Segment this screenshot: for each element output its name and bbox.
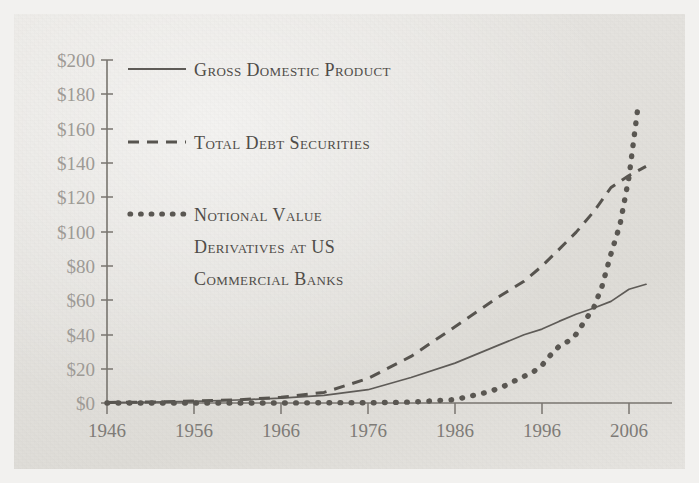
- y-axis: $200 $180 $160 $140 $120 $100 $80 $60 $4…: [57, 50, 113, 414]
- series-line-notional-value-derivatives: [107, 106, 638, 403]
- y-tick-label: $200: [57, 50, 95, 71]
- chart-legend: Gross Domestic Product Total Debt Securi…: [128, 60, 391, 289]
- y-tick-label: $180: [57, 84, 95, 105]
- y-tick-label: $60: [67, 290, 96, 311]
- x-tick-label: 1986: [436, 420, 474, 441]
- y-axis-tick-labels: $200 $180 $160 $140 $120 $100 $80 $60 $4…: [57, 50, 95, 414]
- x-axis: 1946 1956 1966 1976 1986 1996 2006: [88, 403, 672, 441]
- y-tick-label: $120: [57, 187, 95, 208]
- y-tick-label: $160: [57, 119, 95, 140]
- x-tick-label: 2006: [610, 420, 648, 441]
- x-tick-label: 1956: [175, 420, 213, 441]
- y-tick-label: $40: [67, 325, 96, 346]
- chart-figure: $200 $180 $160 $140 $120 $100 $80 $60 $4…: [0, 0, 699, 483]
- series-line-total-debt-securities: [107, 166, 646, 402]
- x-axis-tick-labels: 1946 1956 1966 1976 1986 1996 2006: [88, 420, 648, 441]
- legend-label-derivatives-line1: Notional Value: [194, 205, 322, 225]
- legend-item-gdp: Gross Domestic Product: [128, 60, 391, 80]
- y-tick-label: $20: [67, 359, 96, 380]
- y-tick-label: $80: [67, 256, 96, 277]
- legend-label-total-debt-securities: Total Debt Securities: [194, 133, 370, 153]
- legend-label-gdp: Gross Domestic Product: [194, 60, 391, 80]
- y-tick-label: $140: [57, 153, 95, 174]
- y-tick-label: $0: [76, 393, 95, 414]
- legend-item-total-debt-securities: Total Debt Securities: [128, 133, 370, 153]
- x-tick-label: 1996: [523, 420, 561, 441]
- x-tick-label: 1966: [262, 420, 300, 441]
- legend-label-derivatives-line3: Commercial Banks: [194, 269, 344, 289]
- legend-label-derivatives-line2: Derivatives at US: [194, 237, 335, 257]
- y-tick-label: $100: [57, 222, 95, 243]
- line-chart: $200 $180 $160 $140 $120 $100 $80 $60 $4…: [0, 0, 699, 483]
- x-tick-label: 1976: [349, 420, 387, 441]
- x-tick-label: 1946: [88, 420, 126, 441]
- legend-item-notional-value-derivatives: Notional Value Derivatives at US Commerc…: [130, 205, 344, 289]
